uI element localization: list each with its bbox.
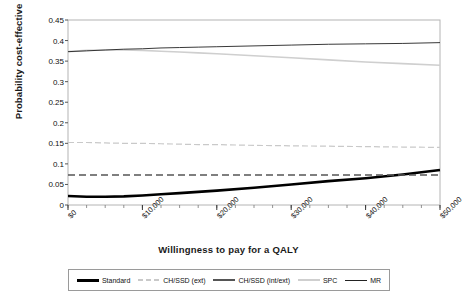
legend-swatch-icon xyxy=(77,276,99,284)
legend-item-standard[interactable]: Standard xyxy=(77,276,130,284)
legend-label: SPC xyxy=(323,277,337,284)
legend-swatch-icon xyxy=(213,276,235,284)
legend-item-mr[interactable]: MR xyxy=(345,276,381,284)
legend-swatch-icon xyxy=(138,276,160,284)
legend-item-spc[interactable]: SPC xyxy=(298,276,337,284)
legend-item-ch-ssd-int-ext[interactable]: CH/SSD (int/ext) xyxy=(213,276,290,284)
legend-label: CH/SSD (ext) xyxy=(163,277,205,284)
legend-swatch-icon xyxy=(298,276,320,284)
legend-label: CH/SSD (int/ext) xyxy=(238,277,290,284)
legend-swatch-icon xyxy=(345,276,367,284)
x-axis-title: Willingness to pay for a QALY xyxy=(0,244,457,255)
series-line-ch-ssd-ext xyxy=(68,143,440,148)
legend-label: Standard xyxy=(102,277,130,284)
legend-label: MR xyxy=(370,277,381,284)
series-line-spc xyxy=(68,50,440,65)
chart-legend: StandardCH/SSD (ext)CH/SSD (int/ext)SPCM… xyxy=(68,269,390,291)
legend-item-ch-ssd-ext[interactable]: CH/SSD (ext) xyxy=(138,276,205,284)
series-line-standard xyxy=(68,170,440,197)
